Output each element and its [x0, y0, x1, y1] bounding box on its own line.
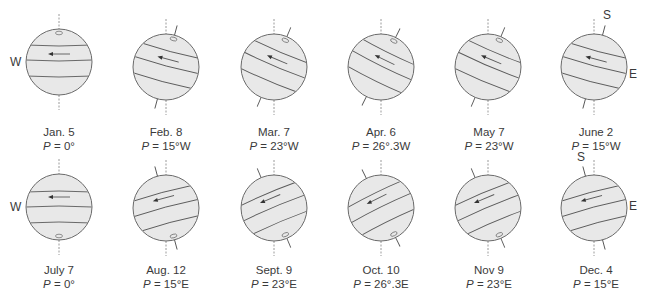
p-value: = 23°W	[475, 140, 513, 152]
panel-label: Feb. 8 P = 15°W	[116, 125, 216, 153]
rotation-axis	[471, 97, 475, 106]
panel-label: Aug. 12 P = 15°E	[116, 263, 216, 291]
panel-date: Dec. 4	[546, 263, 646, 277]
p-value: = 26°.3E	[364, 278, 409, 290]
panel-position-angle: P = 15°W	[546, 139, 646, 153]
direction-label-west: W	[10, 55, 21, 69]
direction-label-east: E	[629, 199, 637, 213]
p-value: = 26°.3W	[363, 140, 411, 152]
panel-date: Oct. 10	[331, 263, 431, 277]
p-value: = 15°W	[582, 140, 620, 152]
panel-label: Oct. 10 P = 26°.3E	[331, 263, 431, 291]
sun-globe	[441, 15, 535, 120]
rotation-axis	[257, 97, 261, 106]
panel-label: Apr. 6 P = 26°.3W	[331, 125, 431, 153]
panel-date: Aug. 12	[116, 263, 216, 277]
sun-disk	[26, 29, 92, 95]
p-symbol: P	[352, 140, 360, 152]
p-value: = 23°W	[260, 140, 298, 152]
rotation-axis	[501, 27, 505, 36]
rotation-axis	[257, 168, 261, 177]
p-symbol: P	[43, 140, 51, 152]
p-value: = 23°E	[262, 278, 297, 290]
p-value: = 0°	[54, 140, 75, 152]
p-value: = 15°E	[584, 278, 619, 290]
panel-position-angle: P = 23°W	[439, 139, 539, 153]
panel-date: Feb. 8	[116, 125, 216, 139]
panel-label: Nov 9 P = 23°E	[439, 263, 539, 291]
sun-globe	[227, 156, 321, 261]
sun-disk	[241, 175, 307, 241]
panel-position-angle: P = 23°E	[439, 277, 539, 291]
sun-globe	[551, 17, 637, 117]
rotation-axis	[471, 168, 475, 177]
sun-globe	[332, 14, 429, 120]
panel-label: Mar. 7 P = 23°W	[224, 125, 324, 153]
sun-disk	[348, 34, 414, 100]
sun-disk	[133, 175, 199, 241]
rotation-axis	[175, 240, 178, 250]
sun-disk	[455, 175, 521, 241]
panel-date: Mar. 7	[224, 125, 324, 139]
panel-position-angle: P = 15°E	[546, 277, 646, 291]
rotation-axis	[175, 25, 178, 35]
sun-disk	[455, 34, 521, 100]
sun-globe	[123, 158, 209, 258]
sun-disk	[348, 175, 414, 241]
sun-globe	[123, 17, 209, 117]
sun-globe	[26, 14, 92, 110]
sun-disk	[241, 34, 307, 100]
p-symbol: P	[464, 140, 472, 152]
p-symbol: P	[251, 278, 259, 290]
panel-label: Jan. 5 P = 0°	[9, 125, 109, 153]
rotation-axis	[155, 166, 158, 176]
panel-position-angle: P = 23°E	[224, 277, 324, 291]
rotation-axis	[501, 238, 505, 247]
panel-date: June 2	[546, 125, 646, 139]
rotation-axis	[287, 238, 291, 247]
panel-position-angle: P = 0°	[9, 277, 109, 291]
panel-date: Sept. 9	[224, 263, 324, 277]
rotation-axis	[287, 27, 291, 36]
direction-label-south: S	[603, 8, 611, 22]
rotation-axis	[396, 238, 400, 247]
direction-label-west: W	[10, 200, 21, 214]
panel-date: Nov 9	[439, 263, 539, 277]
direction-label-south: S	[577, 150, 585, 164]
sun-globe	[441, 156, 535, 261]
rotation-axis	[155, 99, 158, 109]
p-symbol: P	[466, 278, 474, 290]
sun-disk	[133, 34, 199, 100]
panel-date: July 7	[9, 263, 109, 277]
p-value: = 0°	[54, 278, 75, 290]
panel-date: Apr. 6	[331, 125, 431, 139]
sun-disk	[26, 174, 92, 240]
panel-label: June 2 P = 15°W	[546, 125, 646, 153]
rotation-axis	[603, 240, 606, 250]
sun-disk	[561, 175, 627, 241]
panel-date: May 7	[439, 125, 539, 139]
rotation-axis	[583, 166, 586, 176]
rotation-axis	[362, 97, 366, 106]
p-symbol: P	[573, 278, 581, 290]
panel-position-angle: P = 15°W	[116, 139, 216, 153]
rotation-axis	[583, 99, 586, 109]
rotation-axis	[396, 28, 400, 37]
p-value: = 15°E	[154, 278, 189, 290]
p-symbol: P	[43, 278, 51, 290]
direction-label-east: E	[629, 67, 637, 81]
p-value: = 23°E	[477, 278, 512, 290]
panel-label: Sept. 9 P = 23°E	[224, 263, 324, 291]
p-symbol: P	[141, 140, 149, 152]
sun-globe	[227, 15, 321, 120]
panel-label: May 7 P = 23°W	[439, 125, 539, 153]
sun-globe	[332, 155, 429, 261]
panel-position-angle: P = 26°.3W	[331, 139, 431, 153]
sun-globe	[26, 159, 92, 255]
panel-position-angle: P = 0°	[9, 139, 109, 153]
p-value: = 15°W	[152, 140, 190, 152]
panel-position-angle: P = 15°E	[116, 277, 216, 291]
panel-position-angle: P = 26°.3E	[331, 277, 431, 291]
panel-label: Dec. 4 P = 15°E	[546, 263, 646, 291]
panel-date: Jan. 5	[9, 125, 109, 139]
